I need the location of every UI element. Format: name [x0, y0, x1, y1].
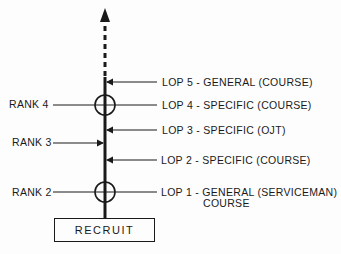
rank-2-label: RANK 2	[12, 186, 52, 198]
lop-1-label-line2: COURSE	[203, 197, 250, 209]
recruit-box: RECRUIT	[54, 218, 155, 242]
lop-5-label: LOP 5 - GENERAL (COURSE)	[162, 76, 313, 88]
lop-4-label: LOP 4 - SPECIFIC (COURSE)	[162, 99, 312, 111]
rank-4-label: RANK 4	[9, 98, 49, 110]
lop-3-label: LOP 3 - SPECIFIC (OJT)	[162, 124, 286, 136]
arrowhead-icon	[100, 8, 110, 22]
career-progression-diagram: RANK 4 RANK 3 RANK 2 LOP 5 - GENERAL (CO…	[0, 0, 341, 254]
lop-2-label: LOP 2 - SPECIFIC (COURSE)	[161, 154, 311, 166]
recruit-label: RECRUIT	[75, 224, 134, 236]
future-progression-arrow	[100, 8, 110, 76]
rank-3-label: RANK 3	[12, 136, 52, 148]
